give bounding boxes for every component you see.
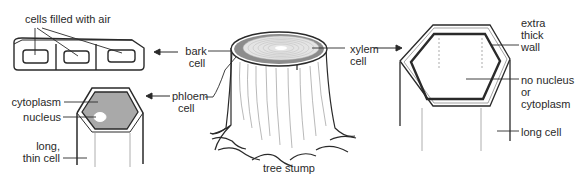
tree-cells-diagram: cells filled with air bark cell phloem c…: [0, 0, 575, 179]
label-xylem-cell-line2: cell: [350, 55, 367, 67]
label-bark-cell-line1: bark: [183, 45, 209, 57]
label-phloem-cell-line2: cell: [178, 102, 195, 114]
label-tree-stump: tree stump: [263, 162, 315, 174]
label-cells-filled-with-air: cells filled with air: [25, 13, 111, 25]
label-bark-cell-line2: cell: [185, 57, 209, 69]
tree-stump-drawing: [208, 32, 356, 166]
label-extra-thick-wall-line1: extra: [521, 17, 545, 29]
label-no-nucleus-line3: cytoplasm: [521, 98, 571, 110]
label-phloem-cell-line1: phloem: [172, 90, 208, 102]
label-long-thin-cell-line2: thin cell: [0, 152, 60, 164]
label-nucleus: nucleus: [0, 111, 61, 123]
bark-cells-drawing: [14, 28, 144, 70]
label-extra-thick-wall-line3: wall: [521, 41, 540, 53]
label-long-cell: long cell: [521, 126, 561, 138]
label-cytoplasm: cytoplasm: [0, 96, 61, 108]
phloem-cell-drawing: [63, 88, 143, 167]
bark-arrow: [154, 49, 178, 55]
label-xylem-cell-line1: xylem: [350, 43, 379, 55]
label-extra-thick-wall-line2: thick: [521, 29, 544, 41]
diagram-drawing: [0, 0, 575, 179]
label-no-nucleus-line1: no nucleus: [521, 74, 574, 86]
xylem-cell-drawing: [400, 25, 519, 151]
label-no-nucleus-line2: or: [521, 86, 531, 98]
label-long-thin-cell-line1: long,: [0, 140, 60, 152]
phloem-arrow: [146, 93, 170, 99]
